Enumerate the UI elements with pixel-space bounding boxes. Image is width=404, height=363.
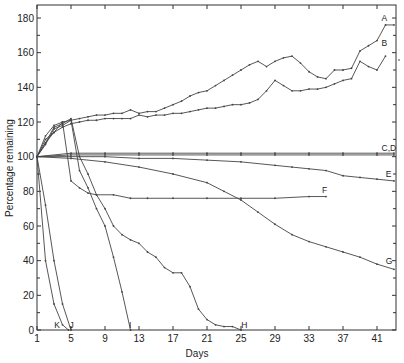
data-point <box>62 324 64 326</box>
data-point <box>393 154 395 156</box>
data-point <box>198 109 200 111</box>
data-point <box>223 190 225 192</box>
data-point <box>138 114 140 116</box>
data-point <box>385 24 387 26</box>
data-point <box>274 60 276 62</box>
data-point <box>283 85 285 87</box>
data-point <box>53 126 55 128</box>
x-tick-label: 5 <box>68 333 74 344</box>
data-point <box>45 135 47 137</box>
data-point <box>79 121 81 123</box>
series-label: I <box>129 320 131 330</box>
data-point <box>45 138 47 140</box>
data-point <box>155 111 157 113</box>
data-point <box>291 234 293 236</box>
data-point <box>283 57 285 59</box>
data-point <box>359 60 361 62</box>
data-point <box>172 158 174 160</box>
data-point <box>70 156 72 158</box>
data-point <box>130 197 132 199</box>
data-point <box>274 223 276 225</box>
series-i <box>36 119 131 331</box>
data-point <box>172 173 174 175</box>
data-point <box>240 161 242 163</box>
data-point <box>240 199 242 201</box>
data-point <box>206 182 208 184</box>
data-point <box>240 154 242 156</box>
data-point <box>274 197 276 199</box>
data-point <box>70 180 72 182</box>
stray-mark <box>398 59 400 61</box>
data-point <box>274 80 276 82</box>
data-point <box>104 152 106 154</box>
series-line-h <box>37 119 241 330</box>
data-point <box>96 119 98 121</box>
line-chart: 1591317212529333741 02040608010012014016… <box>0 0 404 363</box>
data-point <box>308 168 310 170</box>
data-point <box>62 123 64 125</box>
data-point <box>206 152 208 154</box>
data-point <box>232 326 234 328</box>
data-point <box>368 45 370 47</box>
data-point <box>138 166 140 168</box>
data-point <box>164 114 166 116</box>
data-point <box>291 55 293 57</box>
series-lines <box>36 24 395 331</box>
data-point <box>87 119 89 121</box>
data-point <box>232 74 234 76</box>
y-tick-label: 180 <box>17 13 34 24</box>
data-point <box>325 86 327 88</box>
series-line-f <box>37 122 326 198</box>
data-point <box>215 85 217 87</box>
data-point <box>342 80 344 82</box>
series-label: A <box>382 13 388 23</box>
data-point <box>376 69 378 71</box>
y-tick-label: 60 <box>23 221 35 232</box>
data-point <box>53 128 55 130</box>
data-point <box>232 104 234 106</box>
data-point <box>181 112 183 114</box>
data-point <box>172 112 174 114</box>
data-point <box>164 107 166 109</box>
data-point <box>138 242 140 244</box>
data-point <box>291 166 293 168</box>
x-tick-label: 1 <box>34 333 40 344</box>
data-point <box>317 88 319 90</box>
series-a <box>36 24 395 158</box>
data-point <box>240 104 242 106</box>
data-point <box>155 256 157 258</box>
data-point <box>130 109 132 111</box>
data-point <box>274 164 276 166</box>
data-point <box>342 154 344 156</box>
data-point <box>87 192 89 194</box>
data-point <box>104 161 106 163</box>
data-point <box>257 60 259 62</box>
data-point <box>104 225 106 227</box>
plot-border <box>37 5 396 330</box>
data-point <box>223 80 225 82</box>
data-point <box>113 112 115 114</box>
data-point <box>113 118 115 120</box>
data-point <box>147 111 149 113</box>
data-point <box>138 154 140 156</box>
data-point <box>206 154 208 156</box>
series-labels: ABC,DEFGHIJK <box>54 13 400 330</box>
x-tick-label: 29 <box>269 333 281 344</box>
data-point <box>266 66 268 68</box>
data-point <box>62 125 64 127</box>
data-point <box>147 116 149 118</box>
data-point <box>155 114 157 116</box>
x-tick-label: 21 <box>201 333 213 344</box>
data-point <box>376 263 378 265</box>
data-point <box>206 90 208 92</box>
data-point <box>189 111 191 113</box>
data-point <box>53 260 55 262</box>
y-tick-label: 40 <box>23 255 35 266</box>
data-point <box>172 154 174 156</box>
data-point <box>206 319 208 321</box>
data-point <box>215 324 217 326</box>
data-point <box>274 152 276 154</box>
y-axis: 020406080100120140160180 <box>17 13 396 336</box>
data-point <box>376 40 378 42</box>
data-point <box>308 71 310 73</box>
